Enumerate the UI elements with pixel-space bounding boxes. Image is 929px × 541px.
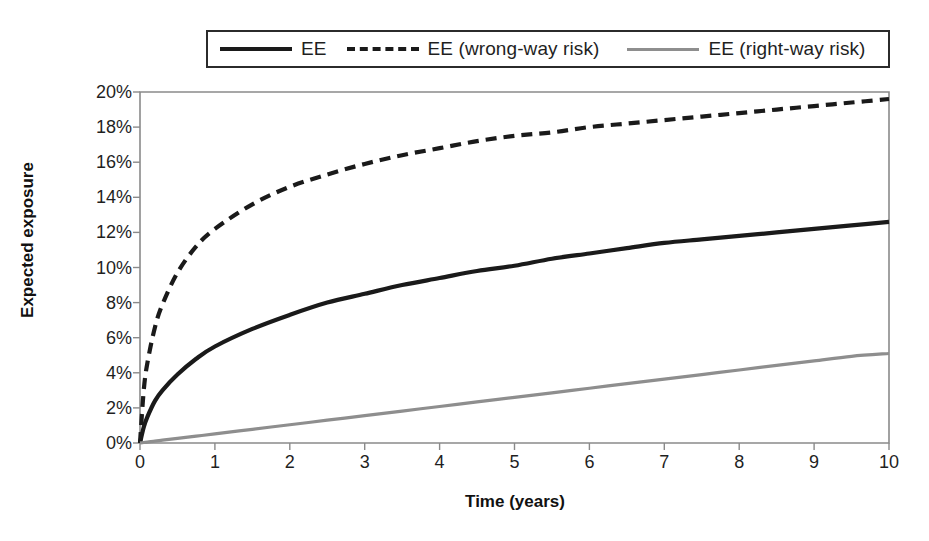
- series-ee: [140, 222, 889, 443]
- series-ee-right-way-risk: [140, 354, 889, 444]
- chart-figure: EE EE (wrong-way risk) EE (right-way ris…: [0, 0, 929, 541]
- plot-area: [0, 0, 929, 541]
- series-ee-wrong-way-risk: [140, 99, 889, 443]
